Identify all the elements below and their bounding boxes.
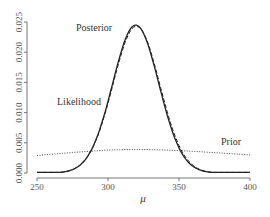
y-tick-label: 0.020 — [14, 42, 24, 63]
posterior-likelihood-prior-chart: 0.0000.0050.0100.0150.0200.0252503003504… — [0, 0, 270, 217]
y-tick-label: 0.025 — [14, 11, 24, 32]
y-tick-label: 0.015 — [14, 72, 24, 93]
series-prior-line — [37, 149, 250, 155]
x-tick-label: 350 — [172, 182, 186, 192]
annotation-posterior: Posterior — [76, 22, 113, 33]
x-axis-label: μ — [139, 192, 146, 204]
y-tick-label: 0.000 — [14, 162, 24, 183]
x-tick-label: 400 — [243, 182, 257, 192]
annotation-likelihood: Likelihood — [57, 96, 101, 107]
x-tick-label: 250 — [30, 182, 44, 192]
y-tick-label: 0.005 — [14, 132, 24, 153]
y-tick-label: 0.010 — [14, 102, 24, 123]
annotation-prior: Prior — [221, 136, 242, 147]
x-tick-label: 300 — [101, 182, 115, 192]
axes: 0.0000.0050.0100.0150.0200.0252503003504… — [14, 11, 257, 192]
